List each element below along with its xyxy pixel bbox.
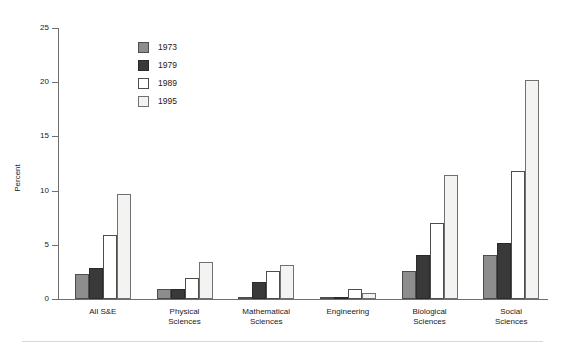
- bar[interactable]: [362, 293, 376, 300]
- y-axis-title: Percent: [14, 164, 22, 192]
- chart-legend: 1973197919891995: [138, 42, 177, 107]
- bar[interactable]: [117, 194, 131, 299]
- legend-item[interactable]: 1973: [138, 42, 177, 53]
- x-axis-category-label: MathematicalSciences: [242, 307, 290, 327]
- legend-item-label: 1989: [158, 79, 177, 88]
- bar[interactable]: [444, 175, 458, 299]
- bar-group: SocialSciences: [480, 28, 542, 299]
- bar[interactable]: [402, 271, 416, 299]
- y-tick-label: 25: [40, 24, 49, 32]
- y-tick-label: 0: [45, 295, 49, 303]
- x-axis-line: [58, 299, 548, 300]
- x-axis-category-label: All S&E: [89, 307, 116, 317]
- bar[interactable]: [416, 255, 430, 299]
- x-axis-category-label-line: Sciences: [242, 317, 290, 327]
- bar-group: BiologicalSciences: [399, 28, 461, 299]
- legend-item-label: 1979: [158, 61, 177, 70]
- legend-swatch-icon: [138, 42, 149, 53]
- y-tick-mark: [52, 245, 58, 246]
- y-tick-mark: [52, 191, 58, 192]
- x-axis-category-label: BiologicalSciences: [412, 307, 446, 327]
- x-axis-category-label-line: Sciences: [412, 317, 446, 327]
- x-axis-category-label: PhysicalSciences: [168, 307, 200, 327]
- bar-group: MathematicalSciences: [235, 28, 297, 299]
- x-axis-category-label-line: Mathematical: [242, 307, 290, 317]
- legend-item[interactable]: 1989: [138, 78, 177, 89]
- bar[interactable]: [103, 235, 117, 299]
- bar[interactable]: [497, 243, 511, 299]
- bar[interactable]: [266, 271, 280, 299]
- bar[interactable]: [348, 289, 362, 299]
- bar[interactable]: [483, 255, 497, 299]
- x-axis-category-label-line: Physical: [168, 307, 200, 317]
- bar-group-bars: [72, 28, 134, 299]
- legend-item-label: 1995: [158, 97, 177, 106]
- bar[interactable]: [89, 268, 103, 299]
- bar[interactable]: [238, 297, 252, 299]
- x-axis-category-label: SocialSciences: [495, 307, 527, 327]
- bar[interactable]: [334, 297, 348, 299]
- x-axis-category-label-line: Biological: [412, 307, 446, 317]
- bar[interactable]: [185, 278, 199, 299]
- bar[interactable]: [75, 274, 89, 299]
- bar[interactable]: [157, 289, 171, 299]
- x-axis-category-label: Engineering: [326, 307, 369, 317]
- y-tick-mark: [52, 136, 58, 137]
- x-axis-category-label-line: Sciences: [495, 317, 527, 327]
- bar[interactable]: [280, 265, 294, 299]
- chart-figure: Percent 0510152025 All S&EPhysicalScienc…: [0, 0, 565, 355]
- footer-divider: [22, 341, 543, 342]
- bar[interactable]: [430, 223, 444, 299]
- y-tick-mark: [52, 299, 58, 300]
- bar-group-bars: [317, 28, 379, 299]
- legend-item[interactable]: 1979: [138, 60, 177, 71]
- bar-group-bars: [480, 28, 542, 299]
- y-tick-label: 15: [40, 132, 49, 140]
- plot-area: 0510152025 All S&EPhysicalSciencesMathem…: [58, 28, 548, 299]
- x-axis-category-label-line: Sciences: [168, 317, 200, 327]
- y-axis-line: [58, 28, 59, 299]
- bar[interactable]: [525, 80, 539, 299]
- bar-group-bars: [399, 28, 461, 299]
- bar[interactable]: [320, 297, 334, 299]
- legend-item-label: 1973: [158, 43, 177, 52]
- legend-item[interactable]: 1995: [138, 96, 177, 107]
- legend-swatch-icon: [138, 78, 149, 89]
- x-axis-category-label-line: Engineering: [326, 307, 369, 317]
- y-tick-mark: [52, 28, 58, 29]
- y-tick-mark: [52, 82, 58, 83]
- bar[interactable]: [171, 289, 185, 299]
- y-tick-label: 20: [40, 78, 49, 86]
- bar-group: All S&E: [72, 28, 134, 299]
- bar[interactable]: [252, 282, 266, 299]
- bar-group: Engineering: [317, 28, 379, 299]
- bar[interactable]: [199, 262, 213, 299]
- bar[interactable]: [511, 171, 525, 299]
- legend-swatch-icon: [138, 96, 149, 107]
- y-tick-label: 5: [45, 241, 49, 249]
- x-axis-category-label-line: Social: [495, 307, 527, 317]
- bar-group-bars: [235, 28, 297, 299]
- legend-swatch-icon: [138, 60, 149, 71]
- y-tick-label: 10: [40, 187, 49, 195]
- x-axis-category-label-line: All S&E: [89, 307, 116, 317]
